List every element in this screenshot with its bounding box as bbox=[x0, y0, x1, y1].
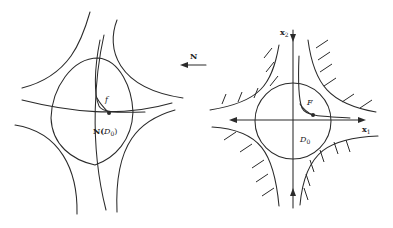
x1-sub: 1 bbox=[367, 128, 371, 135]
label-curve-f: f bbox=[105, 96, 108, 104]
mapping-n-text: N bbox=[190, 51, 197, 61]
label-d0: D0 bbox=[300, 136, 310, 145]
hyperbola-bottom-left bbox=[212, 127, 279, 206]
n-d0-prefix: N( bbox=[93, 126, 104, 136]
curve-f-point bbox=[107, 111, 111, 115]
label-x2-axis: x2 bbox=[280, 28, 289, 38]
hyperbola-top-left bbox=[210, 45, 279, 110]
hyperbola-top-right bbox=[113, 20, 183, 98]
d0-sub: 0 bbox=[306, 138, 310, 145]
arrow-left-icon bbox=[229, 117, 237, 123]
hyperbola-top-right bbox=[308, 40, 376, 112]
left-panel bbox=[15, 12, 183, 214]
curve-f bbox=[95, 40, 145, 112]
n-d0-suffix: ) bbox=[114, 127, 117, 136]
label-x1-axis: x1 bbox=[362, 125, 371, 135]
mapping-arrow bbox=[180, 62, 206, 68]
hyperbola-top-left bbox=[22, 12, 90, 88]
curve-F-text: F bbox=[307, 98, 313, 107]
arrow-down-icon bbox=[290, 34, 296, 42]
right-panel bbox=[210, 30, 378, 208]
label-n-d0: N(D0) bbox=[93, 127, 117, 137]
arrow-right-icon bbox=[358, 117, 366, 123]
hyperbola-bottom-right bbox=[117, 110, 175, 212]
curve-f-point bbox=[311, 113, 315, 117]
x2-sub: 2 bbox=[285, 31, 289, 38]
arrow-left-icon bbox=[180, 62, 188, 68]
diagram-canvas bbox=[0, 0, 393, 228]
hyperbola-bottom-right bbox=[300, 136, 378, 205]
label-mapping-n: N bbox=[190, 52, 197, 60]
arrow-up-icon bbox=[290, 188, 296, 196]
label-curve-F: F bbox=[307, 99, 313, 107]
curve-f-text: f bbox=[105, 95, 108, 104]
hyperbola-bottom-left bbox=[15, 125, 77, 214]
